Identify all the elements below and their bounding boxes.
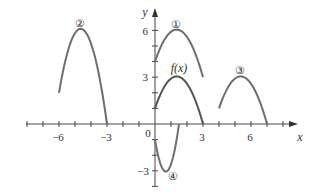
x-axis-arrow-icon: [289, 121, 298, 127]
y-axis-arrow-icon: [152, 8, 158, 17]
curve-3: [219, 76, 267, 124]
y-tick-label: 6: [143, 25, 149, 37]
curve-2: [59, 29, 107, 124]
fx-curve: [155, 76, 203, 124]
curve-3-label: ③: [235, 64, 245, 76]
y-tick-label: −3: [137, 165, 149, 177]
x-tick-label: 6: [247, 131, 253, 143]
chart: −6 −3 0 3 6 6 3 −3 x y f(x) ① ② ③ ④: [0, 0, 318, 196]
x-tick-label: 3: [199, 131, 205, 143]
y-tick-label: 3: [143, 71, 149, 83]
fx-label: f(x): [171, 61, 188, 75]
origin-label: 0: [145, 127, 151, 139]
x-tick-label: −6: [52, 131, 64, 143]
curve-2-label: ②: [75, 17, 85, 29]
x-tick-label: −3: [100, 131, 112, 143]
curve-4: [155, 124, 179, 172]
curve-1-label: ①: [171, 18, 181, 30]
curve-4-label: ④: [168, 170, 178, 182]
y-axis-label: y: [141, 5, 148, 19]
x-axis-label: x: [296, 130, 303, 144]
curves: [59, 29, 267, 172]
